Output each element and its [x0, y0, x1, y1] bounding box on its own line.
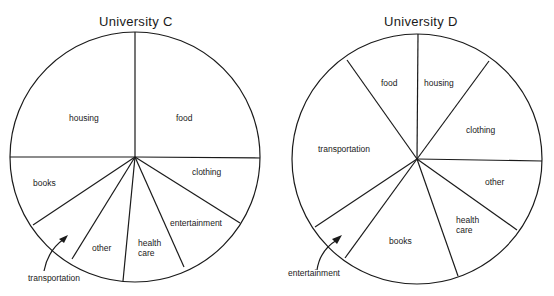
- label-books: books: [389, 236, 412, 246]
- chart-title: University C: [99, 14, 173, 29]
- label-clothing: clothing: [192, 167, 221, 177]
- label-health: health: [138, 238, 161, 248]
- label-transportation: transportation: [28, 273, 80, 283]
- label-housing: housing: [69, 113, 99, 123]
- pie-chart-university-d: University D food housing clothing trans…: [277, 0, 554, 296]
- label-food: food: [176, 113, 193, 123]
- label-care: care: [456, 225, 473, 235]
- label-clothing: clothing: [466, 125, 495, 135]
- label-other: other: [92, 243, 111, 253]
- label-entertainment: entertainment: [170, 218, 222, 228]
- label-entertainment: entertainment: [288, 268, 340, 278]
- label-food: food: [381, 78, 398, 88]
- label-health-care: health care: [138, 238, 161, 258]
- pie-chart-university-c: University C housing food books clothing…: [0, 0, 277, 296]
- label-health: health: [456, 215, 479, 225]
- label-housing: housing: [424, 78, 454, 88]
- label-health-care: health care: [456, 215, 479, 235]
- label-transportation: transportation: [318, 144, 370, 154]
- label-care: care: [138, 248, 155, 258]
- label-other: other: [485, 177, 504, 187]
- label-books: books: [33, 178, 56, 188]
- chart-title: University D: [384, 14, 458, 29]
